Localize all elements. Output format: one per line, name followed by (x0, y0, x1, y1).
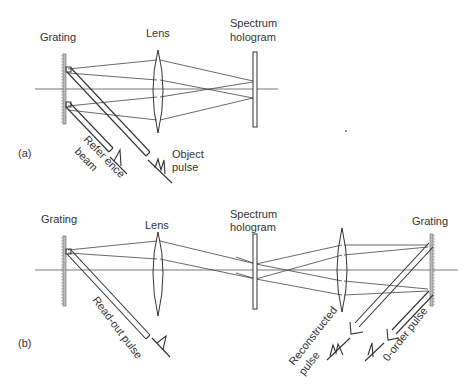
lens-label-a: Lens (146, 27, 170, 39)
rays-a (68, 60, 253, 120)
lens-a (153, 50, 163, 133)
hologram-label-a-2: hologram (230, 31, 276, 43)
rays-b (68, 241, 428, 295)
grating-left-label-b: Grating (41, 213, 77, 225)
readout-pulse-glyph (152, 336, 170, 357)
lens-left-label-b: Lens (145, 219, 169, 231)
stray-dot (345, 130, 347, 132)
object-pulse-label-2: pulse (172, 161, 198, 173)
grating-right-label-b: Grating (412, 215, 448, 227)
hologram-label-b-2: hologram (230, 221, 276, 233)
grating-left-b (62, 236, 66, 306)
readout-pulse-label: Read-out pulse (90, 294, 144, 361)
panel-a-tag: (a) (18, 147, 31, 159)
reconstructed-pulse-glyph (327, 338, 350, 360)
grating-label-a: Grating (40, 31, 76, 43)
panel-b-tag: (b) (18, 337, 31, 349)
object-pulse-label-1: Object (172, 148, 204, 160)
lens-left-b (153, 232, 163, 316)
object-pulse-glyph (148, 159, 172, 183)
diagram-canvas: Grating Lens Spectrum hologram (a) (0, 0, 474, 389)
panel-a: Grating Lens Spectrum hologram (a) (18, 17, 347, 183)
holography-diagram: Grating Lens Spectrum hologram (a) (0, 0, 474, 389)
hologram-label-a-1: Spectrum (230, 17, 277, 29)
spectrum-hologram-b (253, 234, 257, 309)
readout-beam-arrow (66, 249, 150, 339)
panel-b: Grating Lens Spectrum hologram Grating (… (18, 208, 458, 377)
spectrum-hologram-a (253, 52, 257, 127)
zero-order-pulse-glyph (365, 343, 384, 361)
hologram-label-b-1: Spectrum (230, 208, 277, 220)
